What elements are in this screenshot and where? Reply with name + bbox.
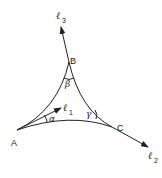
vector-l3	[61, 27, 69, 62]
angle-label-beta: β	[64, 79, 70, 89]
angle-label-gamma: γ	[86, 109, 92, 119]
vector-label-l1: ℓ	[63, 102, 67, 113]
vector-label-l2: ℓ	[148, 150, 152, 161]
geodesic-triangle-diagram: A B C α β γ ℓ 1 ℓ 2 ℓ 3	[0, 0, 162, 178]
vertex-label-a: A	[11, 138, 17, 148]
vertex-label-c: C	[117, 123, 124, 133]
vector-label-l1-sub: 1	[69, 109, 73, 116]
vector-label-l2-sub: 2	[154, 157, 158, 164]
angle-label-alpha: α	[49, 114, 55, 124]
side-ab	[17, 62, 69, 130]
vertex-label-b: B	[70, 56, 76, 66]
vector-label-l3-sub: 3	[62, 17, 66, 24]
vector-label-l3: ℓ	[56, 10, 60, 21]
